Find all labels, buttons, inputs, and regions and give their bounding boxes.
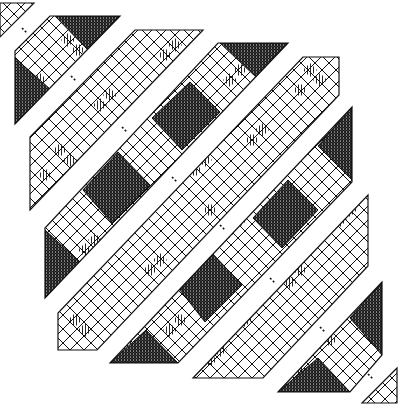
- hatched-cell: [183, 53, 197, 67]
- lattice-diagram: [0, 0, 403, 415]
- connector-arrow-icon: [368, 374, 373, 379]
- connector-arrow-icon: [22, 28, 27, 33]
- connector-arrow-icon: [172, 177, 177, 182]
- connector-arrow-icon: [320, 327, 325, 332]
- connector-arrow-icon: [220, 225, 225, 230]
- connector-arrow-icon: [122, 127, 127, 132]
- connector-arrow-icon: [71, 76, 76, 81]
- connector-arrow-icon: [270, 278, 275, 283]
